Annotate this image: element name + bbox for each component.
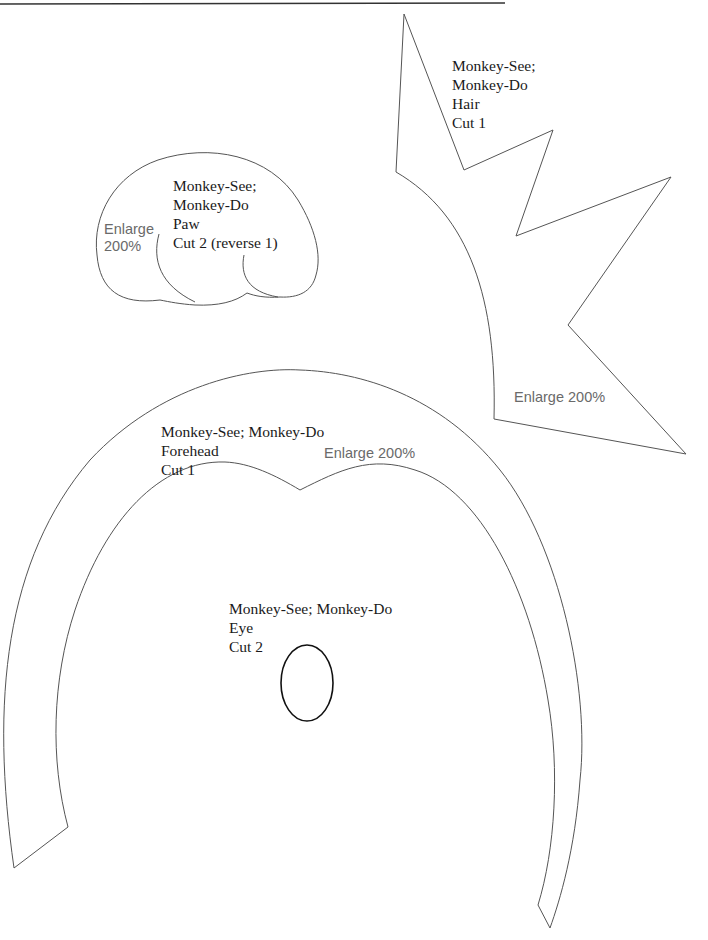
eye-label-line-3: Cut 2 [229,637,392,656]
forehead-label-line-1: Monkey-See; Monkey-Do [161,422,324,441]
paw-inner-curve-2 [243,255,278,297]
hair-label-line-4: Cut 1 [452,113,536,132]
paw-enlarge-line-2: 200% [104,238,154,255]
hair-label-line-1: Monkey-See; [452,56,536,75]
paw-enlarge-note: Enlarge 200% [104,221,154,255]
forehead-enlarge-note: Enlarge 200% [324,445,415,462]
forehead-label-line-2: Forehead [161,441,324,460]
hair-label-line-3: Hair [452,94,536,113]
forehead-label-line-3: Cut 1 [161,460,324,479]
eye-label: Monkey-See; Monkey-Do Eye Cut 2 [229,599,392,656]
hair-outline [396,14,686,454]
paw-label-line-4: Cut 2 (reverse 1) [173,233,278,252]
forehead-label: Monkey-See; Monkey-Do Forehead Cut 1 [161,422,324,479]
paw-label: Monkey-See; Monkey-Do Paw Cut 2 (reverse… [173,176,278,252]
pattern-canvas [0,0,708,940]
paw-label-line-2: Monkey-Do [173,195,278,214]
top-rule [0,3,505,4]
hair-label: Monkey-See; Monkey-Do Hair Cut 1 [452,56,536,132]
hair-label-line-2: Monkey-Do [452,75,536,94]
paw-label-line-1: Monkey-See; [173,176,278,195]
eye-label-line-2: Eye [229,618,392,637]
hair-enlarge-note: Enlarge 200% [514,389,605,406]
eye-label-line-1: Monkey-See; Monkey-Do [229,599,392,618]
eye-outline [281,645,333,721]
paw-enlarge-line-1: Enlarge [104,221,154,238]
paw-label-line-3: Paw [173,214,278,233]
